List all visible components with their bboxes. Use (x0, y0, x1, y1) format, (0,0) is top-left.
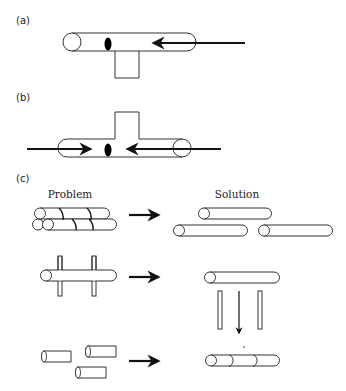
t-junction-stub (115, 51, 139, 78)
problem-scattered-segments (42, 346, 117, 378)
droplet-icon (105, 144, 112, 157)
panel-c-label: (c) (16, 173, 29, 184)
solution-tube-lifted (205, 272, 280, 348)
problem-tube-with-bars (41, 256, 117, 296)
tube-end-cap (63, 33, 81, 51)
solution-separated-tubes (174, 208, 333, 236)
panel-c: (c) Problem Solution (16, 173, 333, 378)
solution-header: Solution (215, 188, 260, 200)
problem-header: Problem (48, 188, 93, 200)
panel-a: (a) (16, 15, 245, 78)
solution-joined-segments (206, 355, 280, 366)
diagram-canvas: (a) (b) (c) Problem Solution (0, 0, 346, 391)
problem-bundled-tubes (33, 208, 117, 230)
panel-a-label: (a) (16, 15, 30, 26)
panel-b-label: (b) (16, 92, 30, 103)
t-junction-stub (115, 112, 139, 139)
droplet-icon (105, 38, 112, 51)
panel-b: (b) (16, 92, 221, 157)
